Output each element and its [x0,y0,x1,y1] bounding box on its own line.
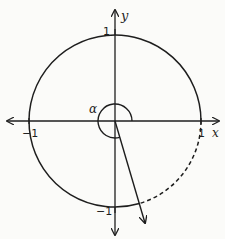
tick-label-right: 1 [198,127,205,140]
unit-circle-dashed-arc [139,121,201,204]
tick-label-bottom: −1 [96,205,112,218]
terminal-ray [115,121,145,223]
angle-label-alpha: α [89,102,97,116]
tick-label-top: 1 [103,25,110,38]
unit-circle-diagram: y x 1 −1 1 −1 α [0,0,225,239]
y-axis-label: y [120,8,129,23]
tick-label-left: −1 [22,127,38,140]
x-axis-label: x [212,126,219,140]
